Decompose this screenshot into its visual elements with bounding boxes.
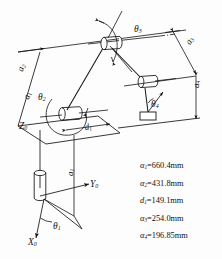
theta1-ray bbox=[44, 199, 82, 229]
label-x0-axis: X0 bbox=[28, 238, 37, 248]
theta3-axis-line bbox=[88, 36, 160, 44]
label-y0-axis: Y0 bbox=[90, 180, 98, 190]
theta3-arc-arrow-bottom bbox=[112, 57, 114, 62]
theta2-axis-right bbox=[79, 110, 108, 113]
label-theta4: θ4 bbox=[151, 100, 159, 110]
link-4-end bbox=[145, 88, 148, 112]
label-theta3: θ3 bbox=[134, 25, 142, 35]
link-2-3 bbox=[67, 43, 106, 110]
label-z0-axis: Z0 bbox=[19, 122, 27, 132]
label-a4: a4 bbox=[192, 81, 202, 88]
projection-line-lower bbox=[44, 199, 74, 216]
legend-row: α2=431.8mm bbox=[140, 176, 188, 194]
x0-axis-arrow bbox=[36, 199, 44, 238]
a2-arrow-head-upper bbox=[18, 49, 44, 53]
lower-right-ground-line bbox=[118, 118, 200, 128]
theta3-axis-dashdot bbox=[160, 34, 176, 36]
label-theta2: θ2 bbox=[38, 93, 46, 103]
legend-row: α3=254.0mm bbox=[140, 211, 188, 229]
label-a1-vertical: a1 bbox=[66, 169, 76, 176]
base-plane-bottom-edge bbox=[46, 133, 120, 144]
legend-row: α4=196.85mm bbox=[140, 228, 188, 246]
end-effector-block bbox=[140, 112, 156, 120]
theta1-angle-arc bbox=[40, 218, 52, 222]
label-theta1: θ1 bbox=[53, 222, 61, 232]
projection-line-right bbox=[74, 216, 82, 229]
theta3-arc-arrow-top bbox=[99, 21, 104, 23]
legend-row: d1=149.1mm bbox=[140, 193, 188, 211]
figure-canvas: a2 a1 θ2 θ3 θ4 θ1 d1 a3 a4 a1 Z0 Y0 bbox=[0, 0, 222, 259]
a3-extension-tick bbox=[165, 31, 180, 33]
mid-right-reference-line bbox=[124, 76, 196, 86]
y0-axis-arrow bbox=[40, 184, 89, 196]
link-3-4 bbox=[112, 48, 142, 79]
label-d1: d1 bbox=[84, 122, 93, 133]
parameter-legend: α1=660.4mm α2=431.8mm d1=149.1mm α3=254.… bbox=[140, 158, 188, 246]
legend-row: α1=660.4mm bbox=[140, 158, 188, 176]
